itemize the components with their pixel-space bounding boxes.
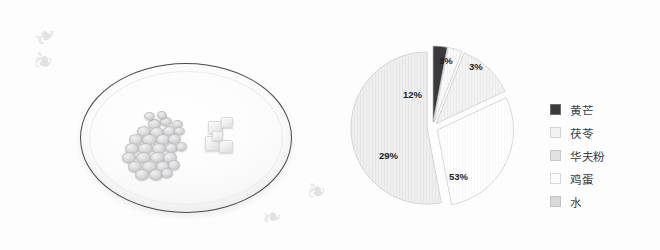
legend-swatch-huangqi bbox=[550, 104, 561, 115]
legend-item-fuling[interactable]: 茯苓 bbox=[550, 121, 660, 144]
decorative-flourish-icon: ❧ bbox=[28, 21, 59, 53]
herb-slice bbox=[135, 169, 149, 180]
legend-label-huafufen: 华夫粉 bbox=[570, 148, 605, 164]
legend-item-huangqi[interactable]: 黄芒 bbox=[550, 98, 660, 121]
slice-value-shui: 53% bbox=[449, 171, 468, 182]
legend-label-shui: 水 bbox=[570, 194, 582, 210]
legend-item-jidan[interactable]: 鸡蛋 bbox=[550, 167, 660, 190]
slice-value-jidan: 29% bbox=[379, 150, 398, 161]
tofu-cube bbox=[219, 140, 233, 153]
pie-slice-texture bbox=[351, 52, 441, 204]
legend-swatch-huafufen bbox=[550, 150, 561, 161]
legend-swatch-jidan bbox=[550, 173, 561, 184]
legend-label-huangqi: 黄芒 bbox=[570, 102, 593, 118]
pie-chart-svg bbox=[345, 40, 520, 215]
chart-legend: 黄芒 茯苓 华夫粉 鸡蛋 水 bbox=[550, 98, 660, 213]
plate-photo-panel: ❧ ❦ ❧ ❦ bbox=[0, 0, 345, 250]
herb-slice bbox=[161, 168, 173, 178]
slice-value-fuling: 3% bbox=[469, 61, 483, 72]
tofu-cube bbox=[221, 117, 233, 128]
decorative-flourish-icon: ❧ bbox=[260, 203, 282, 230]
herb-slice bbox=[157, 111, 167, 119]
white-oval-plate bbox=[80, 63, 292, 213]
legend-label-jidan: 鸡蛋 bbox=[570, 171, 593, 187]
slice-value-huafufen: 12% bbox=[403, 89, 422, 100]
legend-swatch-fuling bbox=[550, 127, 561, 138]
legend-item-huafufen[interactable]: 华夫粉 bbox=[550, 144, 660, 167]
tofu-cube bbox=[212, 131, 223, 141]
slice-value-huangqi: 3% bbox=[439, 55, 453, 66]
decorative-flourish-icon: ❦ bbox=[306, 183, 330, 202]
pie-chart: 3% 3% 12% 29% 53% bbox=[345, 40, 520, 215]
decorative-flourish-icon: ❦ bbox=[31, 52, 57, 73]
legend-label-fuling: 茯苓 bbox=[570, 125, 593, 141]
legend-swatch-shui bbox=[550, 196, 561, 207]
legend-item-shui[interactable]: 水 bbox=[550, 190, 660, 213]
herb-slice bbox=[176, 142, 187, 151]
pie-chart-panel: 3% 3% 12% 29% 53% 黄芒 茯苓 华夫粉 鸡蛋 水 bbox=[345, 0, 660, 250]
plate-inner-rim bbox=[89, 71, 283, 205]
herb-slice bbox=[144, 112, 155, 120]
